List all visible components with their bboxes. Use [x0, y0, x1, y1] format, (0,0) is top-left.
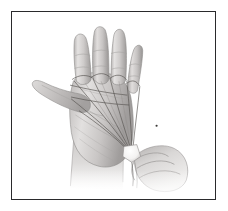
bottom-fade [12, 170, 215, 199]
middle-finger [93, 27, 109, 84]
ring-finger [111, 29, 126, 85]
image-border [11, 11, 216, 200]
stray-dot [155, 125, 157, 127]
screenshot-root: String Figure Hand Illustration [0, 0, 228, 211]
hand-string-figure-illustration [12, 12, 215, 199]
